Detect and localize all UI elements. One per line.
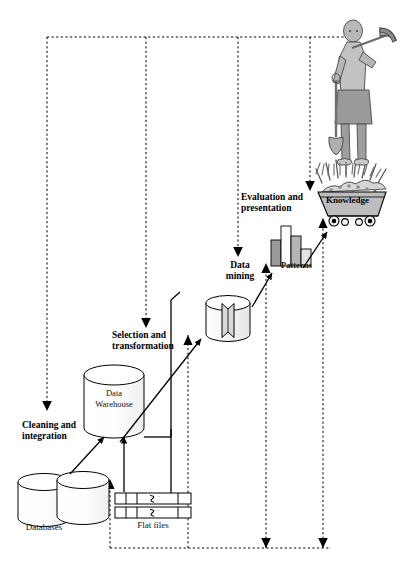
- diagram-canvas: ····: [0, 0, 411, 587]
- arrowhead-riser-warehouse: [183, 335, 192, 345]
- solid-process-arrows: [70, 232, 327, 493]
- arrowhead-riser-patterns: [318, 218, 327, 228]
- databases-shape: [18, 472, 109, 527]
- elbow-connector: [144, 292, 180, 437]
- feedback-dashed-lines: [47, 37, 346, 548]
- stage-label-selection: Selection andtransformation: [112, 330, 174, 352]
- stage-label-evaluation: Evaluation andpresentation: [241, 192, 303, 214]
- arrowhead-bottom-mid: [261, 538, 271, 548]
- svg-text:··: ··: [157, 494, 160, 499]
- flat-files-label: Flat files: [122, 520, 184, 530]
- arrowhead-evaluation: [305, 181, 315, 191]
- stage-label-mining: Datamining: [218, 260, 262, 282]
- patterns-label: Patterns: [281, 261, 329, 271]
- pattern-bar-1: [271, 240, 281, 266]
- arrowhead-bottom-right: [318, 538, 328, 548]
- flat-files-shape: ····: [115, 493, 191, 518]
- arrow-databases-to-warehouse: [70, 437, 104, 474]
- arrowhead-cleaning: [42, 401, 52, 411]
- databases-label: Databases: [18, 522, 70, 532]
- miner-right-leg: [357, 124, 366, 160]
- warehouse-label: DataWarehouse: [84, 388, 144, 409]
- cart-wheels: [329, 216, 375, 226]
- data-mining-process-diagram: ····: [0, 0, 411, 587]
- arrowhead-riser-mining: [261, 263, 270, 273]
- arrowhead-selection: [141, 318, 151, 328]
- data-mining-shape: [206, 296, 250, 342]
- svg-text:··: ··: [157, 508, 160, 513]
- arrowhead-mining: [233, 247, 243, 257]
- elbow-vertical: [171, 292, 180, 437]
- miner-figure-shape: [316, 20, 396, 177]
- knowledge-cart-shape: [316, 159, 386, 226]
- stage-label-cleaning: Cleaning andintegration: [22, 420, 76, 442]
- miner-apron: [335, 90, 372, 124]
- knowledge-label: Knowledge: [326, 195, 369, 205]
